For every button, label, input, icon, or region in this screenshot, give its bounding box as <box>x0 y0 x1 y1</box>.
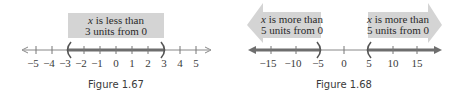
svg-text:3: 3 <box>161 57 167 69</box>
svg-text:4: 4 <box>177 57 183 69</box>
arrow-left-icon <box>248 46 256 54</box>
callout-left-line-2: 5 units from 0 <box>261 24 324 36</box>
svg-text:−5: −5 <box>27 57 39 69</box>
svg-text:5: 5 <box>366 57 372 69</box>
svg-text:2: 2 <box>145 57 151 69</box>
svg-text:5: 5 <box>193 57 199 69</box>
svg-text:−10: −10 <box>284 57 302 69</box>
svg-text:−15: −15 <box>259 57 277 69</box>
svg-text:10: 10 <box>388 57 400 69</box>
svg-text:−4: −4 <box>43 57 55 69</box>
figure-1-67: x is less than 3 units from 0 −5 −4 −3 − <box>22 13 211 90</box>
svg-text:0: 0 <box>113 57 119 69</box>
figure-caption: Figure 1.68 <box>316 79 372 90</box>
callout-line-2: 3 units from 0 <box>85 25 148 37</box>
svg-text:0: 0 <box>341 57 347 69</box>
svg-text:15: 15 <box>412 57 424 69</box>
callout-right-line-2: 5 units from 0 <box>367 24 430 36</box>
tick-labels: −15 −10 −5 0 5 10 15 <box>259 57 423 69</box>
tick-labels: −5 −4 −3 −2 −1 0 1 2 3 4 5 <box>27 57 199 69</box>
svg-text:−5: −5 <box>312 57 324 69</box>
figure-1-68: x is more than 5 units from 0 x is more … <box>247 3 442 90</box>
arrow-right-icon <box>434 46 442 54</box>
figures-canvas: x is less than 3 units from 0 −5 −4 −3 − <box>0 0 461 98</box>
svg-text:−1: −1 <box>91 57 103 69</box>
figure-caption: Figure 1.67 <box>88 79 144 90</box>
svg-text:−3: −3 <box>59 57 71 69</box>
svg-text:−2: −2 <box>75 57 87 69</box>
svg-text:1: 1 <box>129 57 135 69</box>
